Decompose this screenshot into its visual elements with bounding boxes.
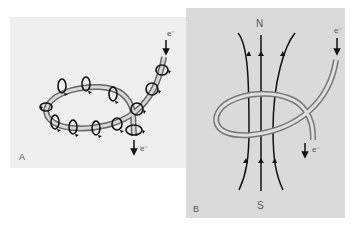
electron-in-label-b: e⁻ [334, 26, 342, 35]
north-pole-label: N [256, 18, 263, 29]
south-pole-label: S [257, 200, 264, 211]
wire-loop-b [216, 60, 336, 140]
electron-in-label-a: e⁻ [167, 29, 175, 38]
magnetic-field-lines [238, 33, 295, 191]
diagram-svg: e⁻ e⁻ A e⁻ e⁻ N S B [0, 0, 355, 228]
wire-loop-a [46, 57, 164, 136]
panel-a-label: A [19, 152, 25, 162]
electron-out-label-a: e⁻ [140, 144, 148, 153]
electron-out-label-b: e⁻ [312, 145, 320, 154]
panel-b-label: B [193, 204, 199, 214]
